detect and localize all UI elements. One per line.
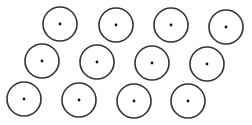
center-dot bbox=[225, 26, 228, 29]
center-dot bbox=[96, 61, 99, 64]
center-dot bbox=[133, 100, 136, 103]
circle-marker bbox=[7, 82, 41, 116]
center-dot bbox=[187, 100, 190, 103]
center-dot bbox=[206, 63, 209, 66]
center-dot bbox=[59, 23, 62, 26]
circle-marker bbox=[135, 46, 169, 80]
circle-marker bbox=[80, 45, 114, 79]
circle-marker bbox=[99, 8, 133, 42]
circle-marker bbox=[117, 84, 151, 118]
diagram-canvas bbox=[0, 0, 252, 125]
circle-marker bbox=[209, 10, 243, 44]
circle-field bbox=[0, 0, 252, 125]
circle-marker bbox=[171, 84, 205, 118]
circle-marker bbox=[62, 83, 96, 117]
center-dot bbox=[41, 60, 44, 63]
center-dot bbox=[78, 99, 81, 102]
circle-marker bbox=[154, 8, 188, 42]
circle-marker bbox=[25, 44, 59, 78]
circle-marker bbox=[190, 47, 224, 81]
circle-marker bbox=[43, 7, 77, 41]
center-dot bbox=[23, 98, 26, 101]
center-dot bbox=[151, 62, 154, 65]
center-dot bbox=[170, 24, 173, 27]
center-dot bbox=[115, 24, 118, 27]
